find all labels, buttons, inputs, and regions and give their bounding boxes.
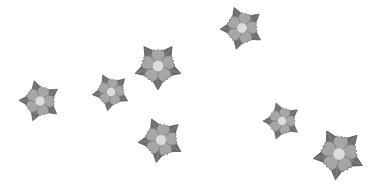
flower-icon [313,128,365,180]
flower-icon [92,73,130,111]
flower-icon [134,42,182,90]
flower-icon [263,102,301,140]
flower-icon [138,117,184,163]
flower-icon [19,80,61,122]
flower-icon [220,6,264,50]
